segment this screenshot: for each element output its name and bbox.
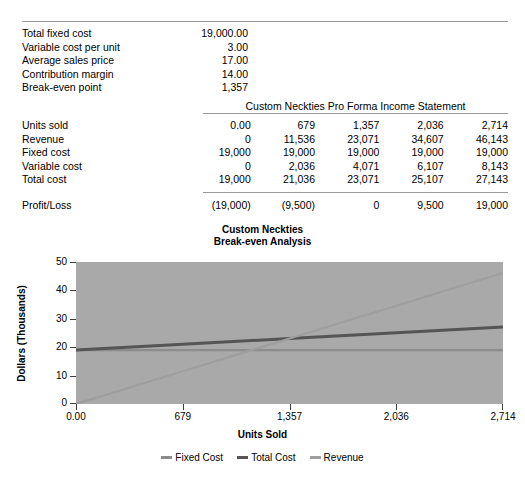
x-axis-tick-label: 2,714 bbox=[490, 411, 515, 422]
chart-title-line1: Custom Neckties bbox=[0, 224, 525, 236]
cell-value: 25,107 bbox=[379, 173, 443, 187]
assumption-row: Variable cost per unit 3.00 bbox=[22, 41, 272, 55]
cell-value: 2,036 bbox=[251, 160, 315, 174]
cell-value: 19,000 bbox=[315, 146, 379, 160]
assumption-value: 19,000.00 bbox=[174, 27, 248, 41]
x-axis-tick bbox=[76, 404, 77, 410]
x-axis-tick bbox=[290, 404, 291, 410]
cell-value: 27,143 bbox=[444, 173, 508, 187]
legend-label: Revenue bbox=[324, 452, 364, 463]
row-label: Fixed cost bbox=[22, 146, 186, 160]
cell-value: 2,036 bbox=[379, 119, 443, 133]
x-axis-tick bbox=[183, 404, 184, 410]
assumption-label: Break-even point bbox=[22, 81, 174, 95]
cell-value: 0 bbox=[315, 199, 379, 213]
assumption-label: Total fixed cost bbox=[22, 27, 174, 41]
assumption-value: 17.00 bbox=[174, 54, 248, 68]
assumption-row: Total fixed cost 19,000.00 bbox=[22, 27, 272, 41]
cell-value: 23,071 bbox=[315, 173, 379, 187]
cell-value: 34,607 bbox=[379, 133, 443, 147]
assumption-label: Variable cost per unit bbox=[22, 41, 174, 55]
legend-swatch-icon bbox=[161, 456, 172, 459]
cell-value: (19,000) bbox=[186, 199, 250, 213]
x-axis-tick bbox=[396, 404, 397, 410]
table-row: Units sold 0.00 679 1,357 2,036 2,714 bbox=[22, 119, 508, 133]
row-label: Profit/Loss bbox=[22, 199, 186, 213]
y-axis-title-text: Dollars (Thousands) bbox=[16, 285, 27, 382]
x-axis-tick-label: 1,357 bbox=[277, 411, 302, 422]
cell-value: 679 bbox=[251, 119, 315, 133]
legend-swatch-icon bbox=[237, 456, 248, 459]
plot-area bbox=[76, 262, 503, 404]
cell-value: 6,107 bbox=[379, 160, 443, 174]
cell-value: 1,357 bbox=[315, 119, 379, 133]
y-axis-title: Dollars (Thousands) bbox=[14, 262, 28, 404]
y-axis-tick-label: 50 bbox=[56, 257, 67, 267]
breakeven-chart: Custom Neckties Break-even Analysis Doll… bbox=[0, 224, 525, 483]
assumptions-block: Total fixed cost 19,000.00 Variable cost… bbox=[22, 27, 272, 95]
assumption-label: Contribution margin bbox=[22, 68, 174, 82]
cell-value: 4,071 bbox=[315, 160, 379, 174]
row-label: Revenue bbox=[22, 133, 186, 147]
statement-title: Custom Neckties Pro Forma Income Stateme… bbox=[22, 99, 508, 113]
assumption-row: Contribution margin 14.00 bbox=[22, 68, 272, 82]
assumption-label: Average sales price bbox=[22, 54, 174, 68]
assumption-value: 1,357 bbox=[174, 81, 248, 95]
table-row: Revenue 0 11,536 23,071 34,607 46,143 bbox=[22, 133, 508, 147]
x-axis-title: Units Sold bbox=[0, 429, 525, 440]
table-row: Total cost 19,000 21,036 23,071 25,107 2… bbox=[22, 173, 508, 187]
row-label: Total cost bbox=[22, 173, 186, 187]
plot-lines bbox=[76, 262, 503, 404]
cell-value: 19,000 bbox=[444, 199, 508, 213]
cell-value: 19,000 bbox=[251, 146, 315, 160]
assumption-row: Break-even point 1,357 bbox=[22, 81, 272, 95]
y-axis-tick-label: 0 bbox=[61, 398, 67, 408]
chart-title: Custom Neckties Break-even Analysis bbox=[0, 224, 525, 248]
profit-loss-table: Profit/Loss (19,000) (9,500) 0 9,500 19,… bbox=[22, 199, 508, 213]
assumption-value: 14.00 bbox=[174, 68, 248, 82]
cell-value: 19,000 bbox=[186, 146, 250, 160]
cell-value: 46,143 bbox=[444, 133, 508, 147]
assumption-value: 3.00 bbox=[174, 41, 248, 55]
table-row: Fixed cost 19,000 19,000 19,000 19,000 1… bbox=[22, 146, 508, 160]
cell-value: 8,143 bbox=[444, 160, 508, 174]
series-line-revenue bbox=[76, 273, 503, 404]
row-label: Units sold bbox=[22, 119, 186, 133]
table-row: Variable cost 0 2,036 4,071 6,107 8,143 bbox=[22, 160, 508, 174]
cell-value: 19,000 bbox=[444, 146, 508, 160]
cell-value: 21,036 bbox=[251, 173, 315, 187]
x-axis-tick-label: 0.00 bbox=[66, 411, 85, 422]
x-axis-tick-label: 679 bbox=[174, 411, 191, 422]
chart-legend: Fixed CostTotal CostRevenue bbox=[0, 452, 525, 463]
cell-value: 0 bbox=[186, 160, 250, 174]
y-axis-tick-label: 20 bbox=[56, 342, 67, 352]
chart-title-line2: Break-even Analysis bbox=[0, 236, 525, 248]
cell-value: 0 bbox=[186, 133, 250, 147]
y-axis-tick-label: 30 bbox=[56, 314, 67, 324]
cell-value: 11,536 bbox=[251, 133, 315, 147]
cell-value: 0.00 bbox=[186, 119, 250, 133]
x-axis: 0.006791,3572,0362,714 bbox=[76, 404, 503, 410]
income-statement: Custom Neckties Pro Forma Income Stateme… bbox=[22, 99, 508, 213]
cell-value: 9,500 bbox=[379, 199, 443, 213]
legend-label: Fixed Cost bbox=[175, 452, 223, 463]
assumption-row: Average sales price 17.00 bbox=[22, 54, 272, 68]
cell-value: (9,500) bbox=[251, 199, 315, 213]
cell-value: 19,000 bbox=[379, 146, 443, 160]
statement-table: Units sold 0.00 679 1,357 2,036 2,714 Re… bbox=[22, 119, 508, 187]
y-axis-tick-label: 10 bbox=[56, 371, 67, 381]
cell-value: 19,000 bbox=[186, 173, 250, 187]
cell-value: 2,714 bbox=[444, 119, 508, 133]
legend-item[interactable]: Fixed Cost bbox=[161, 452, 223, 463]
legend-item[interactable]: Revenue bbox=[310, 452, 364, 463]
legend-label: Total Cost bbox=[251, 452, 295, 463]
x-axis-tick bbox=[502, 404, 503, 410]
legend-item[interactable]: Total Cost bbox=[237, 452, 295, 463]
y-axis-tick-label: 40 bbox=[56, 285, 67, 295]
legend-swatch-icon bbox=[310, 456, 321, 459]
x-axis-tick-label: 2,036 bbox=[384, 411, 409, 422]
top-divider bbox=[22, 21, 508, 22]
cell-value: 23,071 bbox=[315, 133, 379, 147]
table-row: Profit/Loss (19,000) (9,500) 0 9,500 19,… bbox=[22, 199, 508, 213]
row-label: Variable cost bbox=[22, 160, 186, 174]
